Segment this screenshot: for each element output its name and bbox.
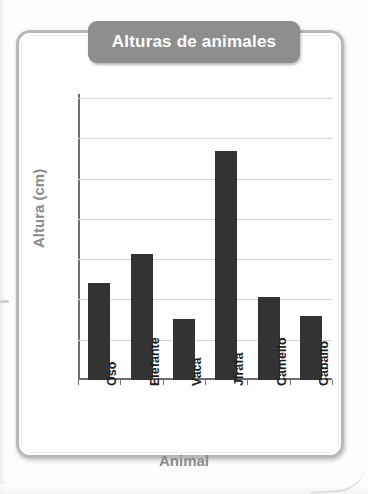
gridline — [78, 138, 332, 139]
page-background: Alturas de animales Altura (cm) Animal 7… — [0, 0, 368, 494]
x-tick-mark — [78, 380, 79, 385]
gridline — [78, 179, 332, 180]
page-left-margin-mark — [0, 300, 9, 303]
chart-title-banner: Alturas de animales — [88, 21, 300, 63]
x-tick-mark — [332, 380, 333, 385]
x-tick-label-vaca: Vaca — [190, 357, 204, 386]
bar-jirafa — [215, 151, 237, 380]
x-tick-label-caballo: Caballo — [317, 341, 331, 386]
page-edge-left-shadow — [0, 0, 6, 494]
x-tick-mark — [205, 380, 206, 385]
x-tick-mark — [163, 380, 164, 385]
x-tick-label-elefante: Elefante — [148, 337, 162, 386]
gridline — [78, 98, 332, 99]
x-axis-title: Animal — [0, 452, 368, 469]
x-tick-label-oso: Oso — [105, 362, 119, 386]
plot-area: 7006005004003002001000 — [78, 98, 332, 380]
gridline — [78, 259, 332, 260]
gridline — [78, 299, 332, 300]
x-tick-mark — [120, 380, 121, 385]
chart-title: Alturas de animales — [112, 32, 276, 52]
gridline — [78, 219, 332, 220]
y-axis-line — [78, 94, 80, 380]
x-tick-mark — [247, 380, 248, 385]
x-tick-label-camello: Camello — [275, 337, 289, 386]
y-axis-title: Altura (cm) — [30, 169, 47, 248]
gridline — [78, 340, 332, 341]
x-tick-label-jirafa: Jirafa — [232, 353, 246, 386]
x-tick-mark — [290, 380, 291, 385]
